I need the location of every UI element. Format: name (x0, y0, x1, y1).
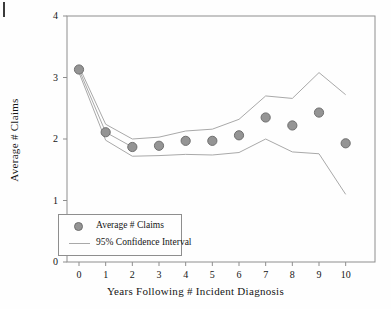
x-tick-label: 9 (307, 269, 331, 280)
x-tick-label: 6 (227, 269, 251, 280)
x-tick-label: 10 (334, 269, 358, 280)
x-tick-label: 1 (94, 269, 118, 280)
data-point-marker (208, 136, 217, 145)
y-tick-label: 0 (40, 256, 58, 267)
y-axis-label: Average # Claims (8, 75, 20, 205)
x-tick-label: 7 (254, 269, 278, 280)
chart-legend: Average # Claims 95% Confidence Interval (58, 214, 182, 256)
x-axis-label: Years Following # Incident Diagnosis (0, 285, 391, 297)
x-tick-label: 3 (147, 269, 171, 280)
x-tick-label: 4 (174, 269, 198, 280)
legend-label-confidence-interval: 95% Confidence Interval (96, 237, 192, 247)
y-axis-label-wrapper: Average # Claims (8, 75, 24, 205)
y-tick-label: 3 (40, 72, 58, 83)
data-point-marker (288, 121, 297, 130)
x-tick-label: 2 (120, 269, 144, 280)
data-point-marker (74, 65, 83, 74)
y-tick-label: 1 (40, 195, 58, 206)
data-point-markers (74, 65, 350, 152)
data-point-marker (128, 142, 137, 151)
y-tick-label: 4 (40, 10, 58, 21)
plot-area (0, 0, 391, 309)
data-point-marker (154, 141, 163, 150)
ci-line (79, 73, 346, 195)
x-axis-ticks (79, 262, 346, 266)
x-tick-label: 0 (67, 269, 91, 280)
ci-line (79, 66, 346, 139)
legend-marker-icon (67, 218, 93, 235)
chart-figure: 01234 012345678910 Average # Claims Year… (0, 0, 391, 309)
legend-item-average-claims: Average # Claims (59, 218, 181, 235)
legend-label-average-claims: Average # Claims (96, 220, 164, 230)
legend-item-confidence-interval: 95% Confidence Interval (59, 235, 181, 252)
legend-line-icon (67, 235, 93, 252)
data-point-marker (234, 131, 243, 140)
data-point-marker (181, 136, 190, 145)
data-point-marker (314, 108, 323, 117)
confidence-interval-lines (79, 66, 346, 194)
x-tick-label: 5 (200, 269, 224, 280)
data-point-marker (341, 139, 350, 148)
y-tick-label: 2 (40, 133, 58, 144)
x-tick-label: 8 (280, 269, 304, 280)
data-point-marker (261, 113, 270, 122)
data-point-marker (101, 128, 110, 137)
